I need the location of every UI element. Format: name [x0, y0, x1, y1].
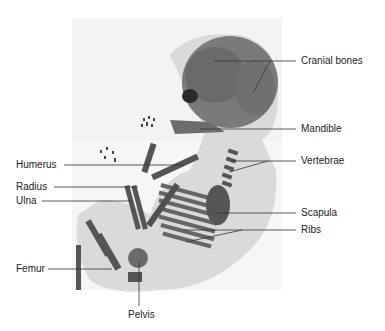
label-vertebrae: Vertebrae: [301, 155, 344, 167]
label-scapula: Scapula: [301, 207, 337, 219]
skeleton-diagram: Cranial bones Mandible Vertebrae Humerus…: [0, 0, 385, 331]
pelvis-shape: [128, 248, 148, 268]
label-ribs: Ribs: [301, 224, 321, 236]
label-ulna: Ulna: [16, 195, 37, 207]
label-femur: Femur: [16, 263, 45, 275]
label-humerus: Humerus: [16, 159, 57, 171]
label-pelvis: Pelvis: [128, 309, 155, 321]
label-radius: Radius: [16, 181, 47, 193]
orbit: [182, 89, 198, 103]
label-cranial-bones: Cranial bones: [301, 55, 363, 67]
scapula-shape: [206, 185, 230, 225]
label-mandible: Mandible: [301, 123, 342, 135]
